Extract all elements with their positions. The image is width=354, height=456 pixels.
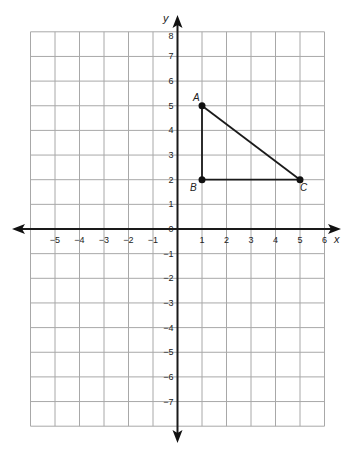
- coordinate-plane: −5−4−3−2−1123456876543210−1−2−3−4−5−6−7 …: [0, 0, 354, 456]
- y-axis-label: y: [162, 12, 170, 24]
- y-tick-label: −6: [163, 372, 173, 382]
- x-tick-label: −1: [148, 235, 158, 245]
- y-tick-label: −4: [163, 323, 173, 333]
- y-tick-label: −1: [163, 249, 173, 259]
- x-tick-label: −2: [123, 235, 133, 245]
- y-tick-label: −3: [163, 298, 173, 308]
- x-tick-label: −4: [74, 235, 84, 245]
- y-tick-label: 5: [168, 101, 173, 111]
- y-tick-label: 3: [168, 150, 173, 160]
- y-tick-label: 2: [168, 175, 173, 185]
- point-a: [199, 102, 206, 109]
- y-tick-label: 7: [168, 51, 173, 61]
- y-tick-label: 1: [168, 199, 173, 209]
- y-tick-label: 6: [168, 76, 173, 86]
- y-tick-label: −2: [163, 273, 173, 283]
- x-tick-label: 4: [273, 235, 278, 245]
- point-b: [199, 176, 206, 183]
- x-tick-label: −5: [50, 235, 60, 245]
- point-label-c: C: [300, 182, 308, 193]
- x-tick-label: 1: [199, 235, 204, 245]
- y-tick-label: 4: [168, 125, 173, 135]
- y-tick-label: −7: [163, 397, 173, 407]
- tick-labels: −5−4−3−2−1123456876543210−1−2−3−4−5−6−7: [50, 31, 327, 407]
- point-label-a: A: [192, 92, 200, 103]
- y-tick-label: 8: [168, 31, 173, 41]
- x-tick-label: 3: [248, 235, 253, 245]
- x-tick-label: 6: [322, 235, 327, 245]
- origin-label: 0: [168, 224, 173, 234]
- triangle-abc: ABC: [190, 92, 308, 193]
- x-tick-label: −3: [99, 235, 109, 245]
- x-tick-label: 2: [224, 235, 229, 245]
- x-tick-label: 5: [297, 235, 302, 245]
- y-tick-label: −5: [163, 347, 173, 357]
- point-label-b: B: [190, 182, 197, 193]
- axes: [12, 15, 341, 443]
- x-axis-label: x: [333, 233, 340, 245]
